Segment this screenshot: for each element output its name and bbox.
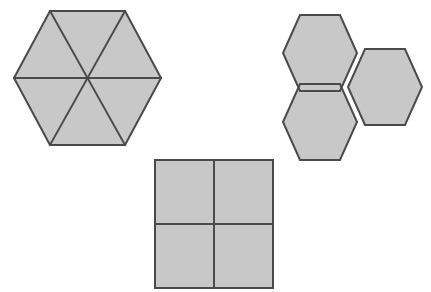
figure-canvas [0,0,431,292]
divided-hexagon [14,11,161,145]
shapes-svg [0,0,431,292]
divided-square [155,160,273,288]
hexagon-cluster [283,15,422,160]
